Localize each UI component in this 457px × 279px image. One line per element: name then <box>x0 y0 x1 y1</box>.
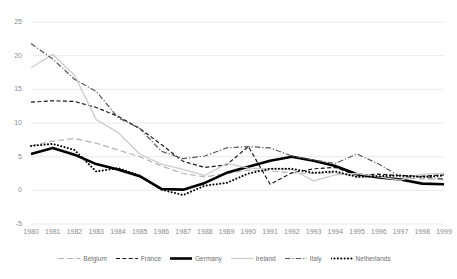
series-line-italy <box>31 44 444 179</box>
gridlines <box>31 22 444 224</box>
legend-label: Belgium <box>83 255 106 262</box>
y-axis-tick-label: 10 <box>4 119 22 127</box>
y-axis-tick-label: 15 <box>4 85 22 93</box>
y-axis-tick-label: 0 <box>4 186 22 194</box>
legend-label: France <box>141 255 161 262</box>
legend-item-belgium[interactable]: Belgium <box>58 255 106 262</box>
legend-swatch-ireland <box>231 255 253 262</box>
legend-item-ireland[interactable]: Ireland <box>231 255 276 262</box>
legend-label: Netherlands <box>356 255 391 262</box>
legend-swatch-germany <box>170 255 192 262</box>
legend-swatch-belgium <box>58 255 80 262</box>
legend-swatch-france <box>116 255 138 262</box>
legend-item-italy[interactable]: Italy <box>285 255 322 262</box>
legend-label: Ireland <box>256 255 276 262</box>
y-axis-tick-label: 5 <box>4 153 22 161</box>
legend-item-france[interactable]: France <box>116 255 161 262</box>
legend-item-netherlands[interactable]: Netherlands <box>331 255 391 262</box>
legend-label: Germany <box>195 255 222 262</box>
x-axis-tick-label: 1999 <box>431 228 457 236</box>
legend-item-germany[interactable]: Germany <box>170 255 222 262</box>
legend-swatch-netherlands <box>331 255 353 262</box>
y-axis-tick-label: 20 <box>4 52 22 60</box>
y-axis-tick-label: 25 <box>4 18 22 26</box>
chart-legend: BelgiumFranceGermanyIrelandItalyNetherla… <box>0 250 449 266</box>
legend-label: Italy <box>310 255 322 262</box>
y-axis-tick-label: -5 <box>4 220 22 228</box>
legend-swatch-italy <box>285 255 307 262</box>
series-line-belgium <box>31 138 444 179</box>
series-layer <box>31 44 444 196</box>
